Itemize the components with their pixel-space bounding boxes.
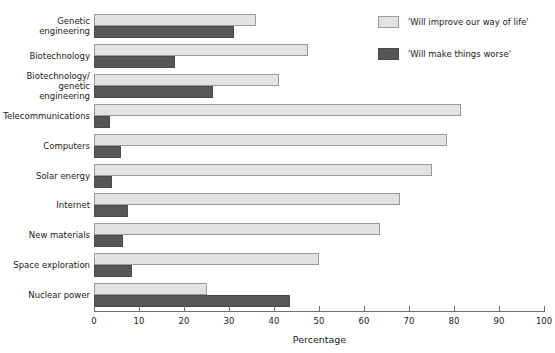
bar-row [94,193,544,217]
legend-swatch-worse [378,48,399,60]
bar-worse [94,265,132,277]
x-axis-tick [184,306,185,311]
legend-label: 'Will improve our way of life' [408,17,529,27]
x-axis-tick [364,306,365,311]
x-axis-tick [229,306,230,311]
bar-row [94,253,544,277]
plot-area [94,0,544,311]
bar-worse [94,26,234,38]
category-label: Computers [2,141,90,151]
category-label-line: Biotechnology [2,51,90,61]
legend-swatch-improve [378,16,399,28]
x-axis-tick-label: 20 [179,316,190,326]
category-label-column: GeneticengineeringBiotechnologyBiotechno… [0,0,90,311]
bar-row [94,283,544,307]
bar-improve [94,223,380,235]
x-axis-tick-label: 60 [359,316,370,326]
x-axis-tick [409,306,410,311]
category-label: Space exploration [2,260,90,270]
bar-row [94,223,544,247]
x-axis-tick-label: 50 [314,316,325,326]
x-axis-tick-label: 10 [134,316,145,326]
bar-worse [94,205,128,217]
bar-row [94,134,544,158]
bar-row [94,104,544,128]
category-label: Internet [2,200,90,210]
x-axis-tick-label: 80 [449,316,460,326]
category-label: Biotechnology/geneticengineering [2,71,90,101]
legend-label: 'Will make things worse' [408,49,511,59]
category-label: Nuclear power [2,290,90,300]
category-label-line: Solar energy [2,171,90,181]
bar-improve [94,14,256,26]
x-axis-tick-label: 90 [494,316,505,326]
chart-container: GeneticengineeringBiotechnologyBiotechno… [0,0,555,353]
x-axis-tick-label: 100 [536,316,552,326]
bar-worse [94,146,121,158]
category-label-line: Nuclear power [2,290,90,300]
x-axis-tick [274,306,275,311]
bar-improve [94,44,308,56]
bar-row [94,164,544,188]
bar-worse [94,56,175,68]
bar-improve [94,253,319,265]
x-axis: 0102030405060708090100 [94,311,545,312]
x-axis-tick [94,306,95,311]
category-label: Solar energy [2,171,90,181]
bar-improve [94,74,279,86]
x-axis-tick [139,306,140,311]
category-label-line: Biotechnology/ [2,71,90,81]
bar-improve [94,164,432,176]
bar-worse [94,176,112,188]
x-axis-title: Percentage [94,334,545,345]
x-axis-tick [319,306,320,311]
bar-row [94,74,544,98]
bar-worse [94,86,213,98]
category-label-line: Genetic [2,16,90,26]
category-label: Biotechnology [2,51,90,61]
x-axis-tick [454,306,455,311]
category-label: Telecommunications [2,111,90,121]
category-label-line: Telecommunications [2,111,90,121]
bar-improve [94,283,207,295]
category-label-line: engineering [2,26,90,36]
x-axis-tick-label: 40 [269,316,280,326]
category-label-line: Space exploration [2,260,90,270]
bar-worse [94,295,290,307]
category-label-line: genetic [2,81,90,91]
category-label: New materials [2,230,90,240]
bar-worse [94,116,110,128]
category-label-line: Computers [2,141,90,151]
category-label: Geneticengineering [2,16,90,36]
category-label-line: engineering [2,91,90,101]
bar-improve [94,104,461,116]
x-axis-tick [544,306,545,311]
bar-improve [94,134,447,146]
x-axis-tick-label: 70 [404,316,415,326]
category-label-line: New materials [2,230,90,240]
x-axis-tick [499,306,500,311]
x-axis-tick-label: 30 [224,316,235,326]
bar-worse [94,235,123,247]
category-label-line: Internet [2,200,90,210]
x-axis-tick-label: 0 [91,316,96,326]
bar-improve [94,193,400,205]
